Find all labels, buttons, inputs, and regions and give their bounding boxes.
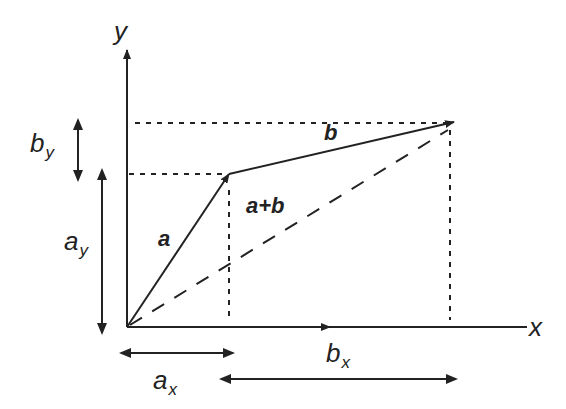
ay-base: a (64, 226, 78, 256)
by-base: b (30, 128, 44, 158)
vector-sum-label: a+b (246, 195, 285, 217)
ax-base: a (153, 365, 167, 395)
ay-label: ay (64, 228, 88, 254)
vector-a (127, 174, 229, 327)
vector-a-label: a (158, 228, 170, 250)
vector-b-label: b (324, 122, 337, 144)
ax-label: ax (153, 367, 177, 393)
bx-label: bx (326, 340, 350, 366)
vector-addition-diagram: y x a b a+b by ay ax bx (0, 0, 566, 409)
by-sub: y (45, 143, 54, 162)
bx-base: b (326, 338, 340, 368)
by-label: by (30, 130, 54, 156)
projection-lines (129, 123, 450, 322)
bx-sub: x (341, 353, 350, 372)
ay-sub: y (79, 241, 88, 260)
x-axis-label: x (529, 314, 542, 340)
ax-sub: x (168, 380, 177, 399)
y-axis-label: y (114, 18, 127, 44)
